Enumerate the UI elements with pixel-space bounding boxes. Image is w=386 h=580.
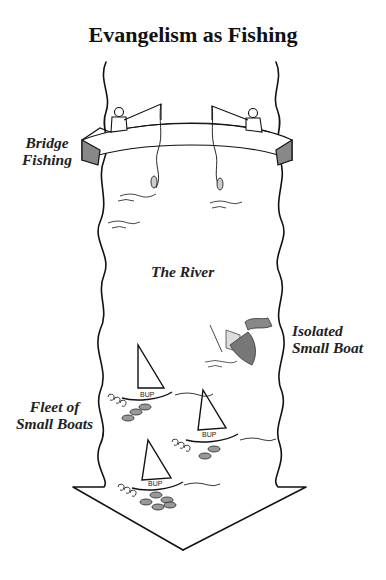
water-ripples [108, 194, 242, 228]
fleet-waves [108, 393, 276, 496]
svg-text:BUP: BUP [202, 431, 217, 438]
isolated-sinking-boat [205, 318, 272, 367]
fleet-boat-3: BUP [132, 440, 183, 490]
label-bridge-line1: Bridge [22, 134, 72, 151]
svg-text:BUP: BUP [140, 391, 155, 398]
label-the-river: The River [151, 263, 214, 280]
fleet-boat-2: BUP [186, 390, 238, 442]
label-isolated-small-boat: Isolated Small Boat [292, 322, 363, 356]
label-fleet-line1: Fleet of [16, 398, 93, 415]
label-fleet-line2: Small Boats [16, 415, 93, 432]
label-bridge-line2: Fishing [22, 151, 72, 168]
label-fleet-of-small-boats: Fleet of Small Boats [16, 398, 93, 432]
fleet-boat-1: BUP [122, 345, 172, 400]
hooked-fish [151, 176, 223, 190]
river-arrow-illustration: BUP BUP BUP [0, 0, 386, 580]
label-bridge-fishing: Bridge Fishing [22, 134, 72, 168]
svg-text:BUP: BUP [148, 480, 163, 487]
label-isolated-line2: Small Boat [292, 339, 363, 356]
label-isolated-line1: Isolated [292, 322, 363, 339]
